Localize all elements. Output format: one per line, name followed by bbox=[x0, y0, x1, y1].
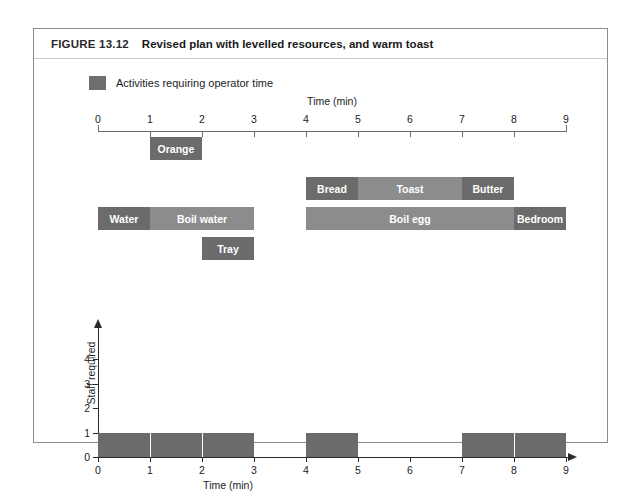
staff-x-tick-4 bbox=[306, 457, 307, 462]
staff-y-tick-label-2: 2 bbox=[78, 402, 90, 414]
staff-x-tick-label-8: 8 bbox=[511, 464, 517, 476]
gantt-axis-tick-label-0: 0 bbox=[95, 113, 101, 125]
staff-x-tick-label-1: 1 bbox=[147, 464, 153, 476]
gantt-bar-toast[interactable]: Toast bbox=[358, 177, 462, 200]
staff-x-tick-3 bbox=[254, 457, 255, 462]
staff-y-tick-label-1: 1 bbox=[78, 427, 90, 439]
staff-separator-8 bbox=[514, 433, 515, 458]
gantt-axis-tick-label-9: 9 bbox=[563, 113, 569, 125]
staff-block-4-5 bbox=[306, 433, 358, 458]
legend: Activities requiring operator time bbox=[89, 76, 273, 90]
staff-x-axis-line bbox=[98, 457, 570, 458]
staff-x-tick-5 bbox=[358, 457, 359, 462]
gantt-axis-tick-label-8: 8 bbox=[511, 113, 517, 125]
gantt-bar-butter[interactable]: Butter bbox=[462, 177, 514, 200]
staff-x-tick-label-3: 3 bbox=[251, 464, 257, 476]
staff-x-axis-arrow bbox=[568, 453, 577, 461]
staff-x-axis-title: Time (min) bbox=[203, 479, 253, 491]
staff-separator-2 bbox=[202, 433, 203, 458]
gantt-bar-bedroom[interactable]: Bedroom bbox=[514, 207, 566, 230]
gantt-bar-boil-egg[interactable]: Boil egg bbox=[306, 207, 514, 230]
gantt-time-axis: Time (min) 0123456789 bbox=[98, 111, 566, 137]
gantt-axis-tick-0 bbox=[98, 125, 99, 132]
staff-x-tick-label-0: 0 bbox=[95, 464, 101, 476]
gantt-axis-tick-label-6: 6 bbox=[407, 113, 413, 125]
figure-number: FIGURE 13.12 bbox=[51, 38, 129, 50]
staff-x-tick-8 bbox=[514, 457, 515, 462]
staff-block-0-3 bbox=[98, 433, 254, 458]
staff-x-tick-2 bbox=[202, 457, 203, 462]
staff-x-tick-label-2: 2 bbox=[199, 464, 205, 476]
staff-x-tick-label-4: 4 bbox=[303, 464, 309, 476]
figure-caption: FIGURE 13.12 Revised plan with levelled … bbox=[34, 29, 607, 59]
staff-y-tick-2 bbox=[93, 408, 98, 409]
gantt-axis-tick-label-7: 7 bbox=[459, 113, 465, 125]
gantt-axis-title: Time (min) bbox=[98, 95, 566, 107]
staff-y-axis-arrow bbox=[94, 319, 102, 328]
gantt-axis-tick-label-2: 2 bbox=[199, 113, 205, 125]
gantt-axis-tick-label-4: 4 bbox=[303, 113, 309, 125]
staff-x-tick-9 bbox=[566, 457, 567, 462]
staff-x-tick-6 bbox=[410, 457, 411, 462]
staff-x-tick-1 bbox=[150, 457, 151, 462]
gantt-axis-tick-9 bbox=[566, 125, 567, 132]
staff-x-tick-label-6: 6 bbox=[407, 464, 413, 476]
figure-body: Activities requiring operator time Time … bbox=[34, 59, 607, 442]
gantt-bar-orange[interactable]: Orange bbox=[150, 137, 202, 160]
legend-swatch-operator-time bbox=[89, 76, 106, 90]
staff-separator-1 bbox=[150, 433, 151, 458]
figure-title: Revised plan with levelled resources, an… bbox=[142, 38, 433, 50]
staff-y-tick-label-0: 0 bbox=[78, 451, 90, 463]
staff-y-axis-title: Staff required bbox=[85, 342, 97, 405]
staff-x-tick-7 bbox=[462, 457, 463, 462]
gantt-axis-line bbox=[98, 131, 566, 132]
staff-x-tick-label-7: 7 bbox=[459, 464, 465, 476]
gantt-axis-tick-label-1: 1 bbox=[147, 113, 153, 125]
gantt-bar-tray[interactable]: Tray bbox=[202, 237, 254, 260]
gantt-bars: OrangeBreadToastButterWaterBoil waterBoi… bbox=[98, 137, 566, 267]
staff-y-tick-label-4: 4 bbox=[78, 353, 90, 365]
staff-x-tick-0 bbox=[98, 457, 99, 462]
gantt-bar-boil-water[interactable]: Boil water bbox=[150, 207, 254, 230]
figure-frame: FIGURE 13.12 Revised plan with levelled … bbox=[33, 28, 608, 443]
gantt-bar-water[interactable]: Water bbox=[98, 207, 150, 230]
staff-y-tick-label-3: 3 bbox=[78, 378, 90, 390]
staff-y-tick-3 bbox=[93, 384, 98, 385]
staff-required-chart: Staff required Time (min) 01234012345678… bbox=[34, 289, 607, 474]
legend-label: Activities requiring operator time bbox=[116, 77, 273, 89]
gantt-bar-bread[interactable]: Bread bbox=[306, 177, 358, 200]
gantt-axis-tick-label-3: 3 bbox=[251, 113, 257, 125]
staff-x-tick-label-9: 9 bbox=[563, 464, 569, 476]
staff-y-tick-4 bbox=[93, 359, 98, 360]
gantt-axis-tick-label-5: 5 bbox=[355, 113, 361, 125]
staff-x-tick-label-5: 5 bbox=[355, 464, 361, 476]
